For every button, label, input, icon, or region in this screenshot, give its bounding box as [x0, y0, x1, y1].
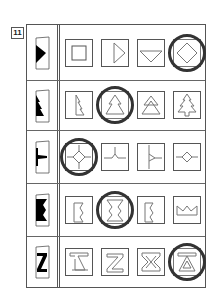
option-crown-zigzag[interactable]: [173, 196, 201, 224]
option-hourglass-x[interactable]: [137, 248, 165, 276]
option-y-junction[interactable]: [137, 143, 165, 171]
question-row-2: [27, 81, 205, 131]
half-cross-junction-icon: [35, 140, 50, 174]
option-half-zigzag-left[interactable]: [65, 196, 93, 224]
question-row-4: [27, 184, 205, 237]
option-square-in-square[interactable]: [65, 39, 93, 67]
option-diamond-cross[interactable]: [65, 143, 93, 171]
option-z-outline[interactable]: [101, 248, 129, 276]
half-tree-icon: [35, 89, 50, 123]
option-small-diamond-line[interactable]: [173, 143, 201, 171]
z-shape-icon: [35, 245, 50, 279]
option-tree-two-tier-stacked[interactable]: [137, 91, 165, 119]
question-row-5: [27, 237, 205, 289]
question-frame: [26, 24, 206, 288]
option-triangle-right-outline[interactable]: [101, 39, 129, 67]
triangle-right-icon: [35, 36, 50, 70]
option-z-triangle[interactable]: [65, 248, 93, 276]
option-tree-two-tier[interactable]: [101, 91, 129, 119]
zigzag-edge-icon: [35, 193, 50, 227]
option-half-tree-outline[interactable]: [65, 91, 93, 119]
question-number-label: 11: [11, 27, 24, 39]
option-triangle-bar[interactable]: [173, 248, 201, 276]
option-tree-three-tier[interactable]: [173, 91, 201, 119]
option-half-zigzag-right[interactable]: [137, 196, 165, 224]
question-row-1: [27, 25, 205, 81]
option-hourglass-zigzag[interactable]: [101, 196, 129, 224]
question-row-3: [27, 131, 205, 184]
option-diamond-in-square[interactable]: [173, 39, 201, 67]
option-t-junction[interactable]: [101, 143, 129, 171]
option-triangle-down-outline[interactable]: [137, 39, 165, 67]
